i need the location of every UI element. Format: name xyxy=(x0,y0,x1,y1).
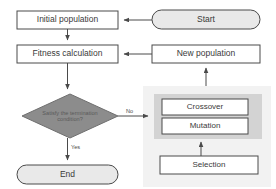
termination-decision-node-shape xyxy=(22,94,118,138)
end-node-shape xyxy=(17,165,118,184)
crossover-node-shape xyxy=(162,99,248,115)
fitness-calculation-node-shape xyxy=(17,45,118,63)
flowchart-canvas: Start Initial population Fitness calcula… xyxy=(0,0,276,189)
initial-population-node-shape xyxy=(17,11,118,29)
new-population-node-shape xyxy=(152,45,260,63)
flowchart-svg xyxy=(0,0,276,189)
mutation-node-shape xyxy=(162,118,248,134)
selection-node-shape xyxy=(160,156,258,174)
start-node-shape xyxy=(152,10,260,29)
